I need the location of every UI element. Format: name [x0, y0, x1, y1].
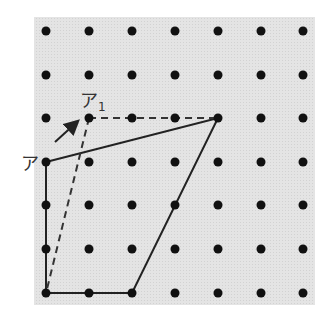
- grid-dot: [214, 289, 223, 298]
- grid-dot: [171, 201, 180, 210]
- grid-dot: [214, 27, 223, 36]
- grid-dot: [85, 201, 94, 210]
- grid-diagram: ア ア1: [0, 0, 335, 323]
- grid-dot: [257, 71, 266, 80]
- grid-dot: [257, 289, 266, 298]
- grid-dot: [42, 158, 51, 167]
- grid-dot: [128, 245, 137, 254]
- grid-dot: [257, 27, 266, 36]
- grid-dot: [42, 201, 51, 210]
- grid-dot: [214, 158, 223, 167]
- grid-dot: [171, 245, 180, 254]
- grid-dot: [85, 245, 94, 254]
- grid-dot: [214, 245, 223, 254]
- grid-dot: [299, 289, 308, 298]
- grid-dot: [128, 201, 137, 210]
- point-a1-main: ア: [80, 90, 98, 111]
- grid-dot: [85, 289, 94, 298]
- grid-dot: [257, 114, 266, 123]
- grid-dot: [85, 114, 94, 123]
- grid-dot: [299, 245, 308, 254]
- grid-dot: [85, 27, 94, 36]
- grid-dot: [257, 245, 266, 254]
- grid-dot: [42, 27, 51, 36]
- grid-dot: [42, 245, 51, 254]
- grid-dot: [128, 289, 137, 298]
- grid-dot: [257, 201, 266, 210]
- grid-dot: [299, 158, 308, 167]
- grid-dot: [128, 114, 137, 123]
- grid-dot: [299, 71, 308, 80]
- grid-dot: [128, 158, 137, 167]
- grid-dot: [85, 158, 94, 167]
- grid-dot: [257, 158, 266, 167]
- grid-dot: [299, 114, 308, 123]
- grid-dot: [214, 201, 223, 210]
- grid-dot: [171, 158, 180, 167]
- grid-dot: [299, 201, 308, 210]
- grid-dot: [299, 27, 308, 36]
- grid-dot: [171, 71, 180, 80]
- grid-dot: [42, 114, 51, 123]
- grid-dot: [42, 71, 51, 80]
- grid-dot: [128, 71, 137, 80]
- grid-dot: [214, 71, 223, 80]
- grid-dot: [85, 71, 94, 80]
- grid-dot: [171, 114, 180, 123]
- grid-dot: [42, 289, 51, 298]
- point-a-label: ア: [21, 153, 39, 174]
- grid-dot: [128, 27, 137, 36]
- grid-dot: [171, 289, 180, 298]
- grid-dot: [171, 27, 180, 36]
- grid-dot: [214, 114, 223, 123]
- point-a1-subscript: 1: [98, 100, 106, 114]
